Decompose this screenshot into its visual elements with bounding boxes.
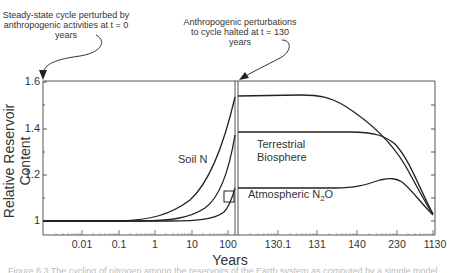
x-tick-label: 1 — [137, 238, 173, 250]
y-axis-label: Relative Reservoir Content — [1, 91, 33, 231]
x-tick-label: 0.1 — [101, 238, 137, 250]
x-tick-label: 140 — [339, 238, 375, 250]
y-tick-label: 1.2 — [18, 168, 40, 180]
label-soil-n: Soil N — [178, 153, 207, 166]
label-terrestrial-biosphere: Terrestrial Biosphere — [257, 138, 307, 164]
chart-canvas — [0, 0, 453, 273]
x-tick-label: 100 — [210, 238, 246, 250]
curve-atmospheric — [43, 188, 235, 221]
x-tick-label: 10 — [174, 238, 210, 250]
arrowhead-start-icon — [39, 70, 47, 80]
label-atm-suffix: O — [325, 188, 334, 200]
y-tick-label: 1 — [18, 214, 40, 226]
label-atm-prefix: Atmospheric N — [248, 188, 320, 200]
figure-caption: Figure 6.3 The cycling of nitrogen among… — [8, 266, 448, 273]
x-tick-label: 230 — [379, 238, 415, 250]
x-tick-label: 0.01 — [64, 238, 100, 250]
x-tick-label: 130.1 — [260, 238, 296, 250]
x-tick-label: 131 — [299, 238, 335, 250]
annotation-arrow-start — [43, 35, 102, 74]
label-atmospheric-n2o: Atmospheric N2O — [248, 188, 333, 205]
label-terrestrial-line2: Biosphere — [257, 151, 307, 164]
annotation-arrow-halt — [244, 40, 289, 77]
x-tick-label: 1130 — [417, 238, 453, 250]
y-tick-label: 1.6 — [18, 75, 40, 87]
label-terrestrial-line1: Terrestrial — [257, 138, 307, 151]
arrowhead-halt-icon — [239, 72, 249, 80]
y-tick-label: 1.4 — [18, 122, 40, 134]
